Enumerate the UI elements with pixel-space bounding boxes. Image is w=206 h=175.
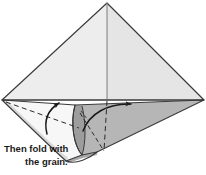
right-dark-flap [73,100,204,155]
caption-line-2: the grain. [25,156,68,167]
caption-line-1: Then fold with [4,143,69,154]
figure-root: Then fold with the grain. [0,0,206,175]
folding-diagram: Then fold with the grain. [0,0,206,175]
